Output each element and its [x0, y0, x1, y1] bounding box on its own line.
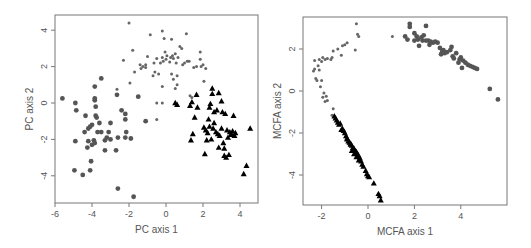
data-point-dot	[321, 96, 324, 99]
series-group-small-dots	[115, 21, 207, 120]
data-point-triangle	[241, 171, 247, 176]
data-point-dot	[176, 74, 179, 77]
data-point-dot	[128, 81, 131, 84]
data-point-dot	[159, 61, 162, 64]
data-point-circle	[60, 96, 65, 101]
data-point-dot	[170, 72, 173, 75]
data-point-dot	[336, 48, 339, 51]
data-point-dot	[161, 30, 164, 33]
data-point-dot	[320, 60, 323, 63]
data-point-circle	[128, 136, 133, 141]
x-tick-label: 4	[237, 209, 242, 219]
data-point-triangle	[190, 131, 196, 136]
data-point-dot	[185, 32, 188, 35]
data-point-dot	[202, 80, 205, 83]
data-point-circle	[405, 37, 410, 42]
x-axis-label: MCFA axis 1	[377, 226, 434, 237]
data-point-triangle	[371, 180, 377, 185]
y-axis-label: PC axis 2	[24, 87, 35, 130]
data-point-circle	[97, 121, 102, 126]
data-point-dot	[324, 58, 327, 61]
data-point-dot	[161, 56, 164, 59]
data-point-circle	[116, 186, 121, 191]
data-point-dot	[164, 51, 167, 54]
data-point-circle	[86, 139, 91, 144]
data-point-dot	[180, 47, 183, 50]
data-point-triangle	[216, 90, 222, 95]
data-point-circle	[82, 130, 87, 135]
x-axis-label: PC axis 1	[135, 224, 178, 235]
data-point-dot	[161, 102, 164, 105]
data-point-circle	[435, 40, 440, 45]
plot-frame	[303, 17, 507, 205]
data-point-dot	[155, 57, 158, 60]
data-point-circle	[103, 148, 108, 153]
data-point-dot	[202, 63, 205, 66]
series-group-large-circles	[403, 21, 501, 101]
data-point-dot	[168, 61, 171, 64]
y-axis-label: MCFA axis 2	[272, 83, 283, 140]
data-point-triangle	[189, 99, 195, 104]
x-tick-label: 4	[458, 211, 463, 221]
data-point-dot	[318, 69, 321, 72]
data-point-dot	[139, 63, 142, 66]
data-point-circle	[496, 97, 501, 102]
data-point-triangle	[192, 114, 198, 119]
data-point-dot	[341, 44, 344, 47]
data-point-dot	[177, 56, 180, 59]
data-point-dot	[355, 22, 358, 25]
data-point-triangle	[219, 98, 225, 103]
x-tick-label: -4	[88, 209, 96, 219]
data-point-triangle	[219, 125, 225, 130]
data-point-circle	[124, 130, 129, 135]
data-point-circle	[73, 139, 78, 144]
data-point-dot	[165, 54, 168, 57]
data-point-dot	[183, 61, 186, 64]
data-point-dot	[115, 88, 118, 91]
data-point-triangle	[204, 137, 210, 142]
data-point-dot	[131, 49, 134, 52]
data-point-triangle	[211, 120, 217, 125]
data-point-circle	[116, 135, 121, 140]
data-point-triangle	[207, 101, 213, 106]
data-point-dot	[391, 35, 394, 38]
y-tick-label: 2	[287, 46, 297, 51]
data-point-dot	[144, 66, 147, 69]
data-point-circle	[99, 130, 104, 135]
data-point-circle	[460, 66, 465, 71]
data-point-circle	[93, 104, 98, 109]
y-tick-label: -4	[287, 171, 297, 179]
x-tick-label: -2	[125, 209, 133, 219]
data-point-circle	[417, 43, 422, 48]
data-point-circle	[143, 119, 148, 124]
data-point-circle	[88, 168, 93, 173]
data-point-dot	[199, 58, 202, 61]
scatter-plot-figure: -6-4-2024-4-2024PC axis 1PC axis 2 -2024…	[0, 0, 531, 248]
data-point-circle	[106, 130, 111, 135]
data-point-dot	[161, 85, 164, 88]
data-point-circle	[72, 168, 77, 173]
mcfa-scatter-plot: -2024-4-202MCFA axis 1MCFA axis 2	[272, 17, 507, 237]
data-point-dot	[312, 70, 315, 73]
data-point-dot	[176, 83, 179, 86]
data-point-dot	[320, 79, 323, 82]
data-point-dot	[149, 33, 152, 36]
series-group-large-circles	[60, 76, 148, 199]
data-point-dot	[174, 52, 177, 55]
y-tick-label: 2	[39, 64, 49, 69]
data-point-circle	[108, 137, 113, 142]
data-point-circle	[92, 141, 97, 146]
data-point-dot	[146, 55, 149, 58]
data-point-dot	[165, 58, 168, 61]
data-point-dot	[199, 51, 202, 54]
data-point-dot	[152, 61, 155, 64]
data-point-triangle	[208, 136, 214, 141]
data-point-triangle	[214, 107, 220, 112]
data-point-dot	[313, 59, 316, 62]
data-point-triangle	[220, 140, 226, 145]
y-tick-label: -2	[287, 129, 297, 137]
data-point-circle	[487, 87, 492, 92]
data-point-dot	[192, 66, 195, 69]
data-point-dot	[204, 67, 207, 70]
data-point-circle	[80, 172, 85, 177]
